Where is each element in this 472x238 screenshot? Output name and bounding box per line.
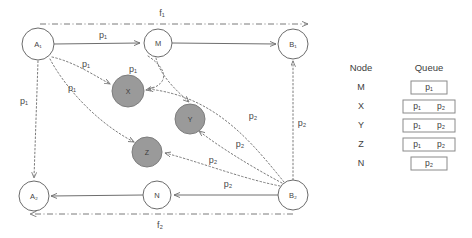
node-a1[interactable]: A₁ (22, 28, 54, 60)
flow-label-f2: f₂ (157, 220, 164, 230)
queue-item-z-0: p₁ (413, 139, 421, 149)
legend-row-n: N p₂ (358, 157, 447, 170)
edge-label-b2-y: p₂ (249, 111, 258, 121)
edge-label-a1-x: p₁ (82, 59, 90, 69)
node-x[interactable]: X (112, 75, 144, 107)
edge-label-y-z: p₂ (209, 155, 218, 165)
node-n[interactable]: N (143, 181, 171, 209)
legend-node-n: N (358, 158, 365, 168)
node-a2[interactable]: A₂ (19, 181, 49, 211)
node-y[interactable]: Y (175, 104, 205, 134)
legend-node-z: Z (358, 139, 364, 149)
edge-label-a1-m: p₁ (99, 30, 107, 40)
diagram-canvas: f₁ f₂ A₁ (0, 0, 472, 238)
queue-item-n-0: p₂ (425, 158, 433, 168)
edge-m-to-b1 (172, 43, 276, 44)
flow-line-f1-group: f₁ (40, 8, 308, 24)
edge-label-b2-n: p₂ (224, 179, 233, 189)
legend-table: Node Queue M p₁ X p₁ p₂ Y p₁ p₂ (350, 62, 455, 170)
queue-box-x (403, 100, 455, 113)
flow-line-f2-group: f₂ (30, 214, 293, 230)
node-z-label: Z (145, 149, 150, 156)
edge-m-to-x (146, 56, 164, 90)
node-m-label: M (155, 39, 161, 48)
node-m[interactable]: M (144, 29, 172, 57)
node-x-label: X (126, 88, 131, 95)
legend-node-y: Y (358, 120, 364, 130)
edge-m-to-y (156, 58, 189, 102)
edge-b2-to-z (165, 153, 280, 186)
edge-label-b2-b1: p₂ (298, 118, 307, 128)
edge-label-a1-a2: p₁ (20, 96, 28, 106)
queue-item-x-1: p₂ (437, 101, 445, 111)
legend-row-m: M p₁ (357, 81, 447, 94)
node-b1-label: B₁ (289, 40, 297, 49)
legend-row-y: Y p₁ p₂ (358, 119, 455, 132)
node-y-label: Y (188, 116, 193, 123)
node-b1[interactable]: B₁ (278, 29, 308, 59)
node-b2-label: B₂ (289, 191, 297, 200)
legend-node-x: X (358, 101, 364, 111)
legend-node-m: M (357, 82, 365, 92)
queue-item-m-0: p₁ (425, 82, 433, 92)
node-a2-label: A₂ (30, 192, 38, 201)
flow-label-f1: f₁ (159, 8, 165, 18)
queue-box-y (403, 119, 455, 132)
legend-row-z: Z p₁ p₂ (358, 138, 455, 151)
queue-item-z-1: p₂ (437, 139, 445, 149)
queue-item-y-1: p₂ (437, 120, 445, 130)
queue-item-x-0: p₁ (413, 101, 421, 111)
node-b2[interactable]: B₂ (278, 180, 308, 210)
edge-label-m-x: p₁ (129, 64, 137, 74)
node-z[interactable]: Z (132, 137, 162, 167)
legend-row-x: X p₁ p₂ (358, 100, 455, 113)
node-a1-label: A₁ (34, 40, 42, 49)
queue-box-z (403, 138, 455, 151)
edge-label-a1-z: p₁ (68, 83, 76, 93)
edge-a1-to-a2 (34, 61, 38, 178)
node-n-label: N (154, 191, 159, 200)
legend-header-queue: Queue (415, 62, 444, 73)
edge-a1-to-m (54, 43, 140, 44)
queue-item-y-0: p₁ (413, 120, 421, 130)
edge-label-b2-z: p₂ (236, 139, 245, 149)
edge-n-to-a2 (51, 195, 143, 196)
legend-header-node: Node (350, 62, 373, 73)
